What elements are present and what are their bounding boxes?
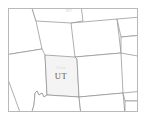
state-shape-wyoming[interactable]	[71, 19, 121, 57]
state-shape-montana[interactable]	[31, 9, 83, 23]
map-thumbnail[interactable]: Utah UT MT	[0, 0, 147, 120]
map-frame: Utah UT MT	[8, 8, 138, 112]
state-shape-kansas[interactable]	[121, 35, 137, 57]
state-shape-nebraska[interactable]	[117, 17, 137, 37]
state-shape-oklahoma[interactable]	[123, 91, 137, 101]
state-label-montana: MT	[66, 9, 73, 13]
state-boundaries-map: Utah UT MT	[9, 9, 137, 111]
state-shape-texas-edge[interactable]	[125, 101, 137, 111]
state-sublabel-utah: Utah	[56, 65, 65, 70]
state-shape-colorado[interactable]	[75, 53, 123, 97]
state-label-utah: UT	[55, 71, 68, 81]
